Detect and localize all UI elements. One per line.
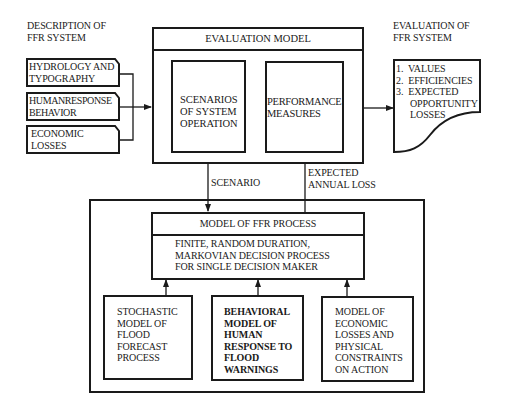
output-num: 1. xyxy=(396,63,403,74)
submodel-line: PHYSICAL xyxy=(335,341,403,353)
submodel-line: RESPONSE TO xyxy=(224,341,292,353)
submodel-line: WARNINGS xyxy=(224,364,292,376)
input-line: HUMANRESPONSE xyxy=(29,95,112,107)
scenarios-line: OF SYSTEM xyxy=(180,106,237,118)
scenarios-box: SCENARIOS OF SYSTEM OPERATION xyxy=(171,60,246,153)
output-item: 3. EXPECTED xyxy=(396,86,478,98)
input-line: TYPOGRAPHY xyxy=(29,73,114,85)
scenarios-line: OPERATION xyxy=(180,118,237,130)
output-list: 1. VALUES 2. EFFICIENCIES 3. EXPECTED OP… xyxy=(396,63,478,121)
submodel-line: MODEL OF xyxy=(224,318,292,330)
output-text: OPPORTUNITY xyxy=(396,98,478,110)
ffr-process-box: MODEL OF FFR PROCESS FINITE, RANDOM DURA… xyxy=(151,212,365,280)
output-text: EXPECTED xyxy=(408,86,458,97)
ffr-desc-line: FOR SINGLE DECISION MAKER xyxy=(175,261,330,273)
input-human-response: HUMANRESPONSE BEHAVIOR xyxy=(29,95,112,118)
economic-losses-model-box: MODEL OF ECONOMIC LOSSES AND PHYSICAL CO… xyxy=(321,296,414,382)
evaluation-model-title: EVALUATION MODEL xyxy=(205,33,311,44)
behavioral-response-model-box: BEHAVIORAL MODEL OF HUMAN RESPONSE TO FL… xyxy=(211,295,304,381)
input-line: ECONOMIC xyxy=(31,128,84,140)
input-line: HYDROLOGY AND xyxy=(29,61,114,73)
output-text: VALUES xyxy=(408,63,446,74)
right-heading-line: FFR SYSTEM xyxy=(393,32,470,44)
submodel-line: ON ACTION xyxy=(335,364,403,376)
submodel-line: PROCESS xyxy=(117,352,178,364)
performance-line: PERFORMANCE xyxy=(267,96,341,108)
submodel-line: MODEL OF xyxy=(117,318,178,330)
ffr-process-header: MODEL OF FFR PROCESS xyxy=(153,214,363,236)
submodel-label: BEHAVIORAL MODEL OF HUMAN RESPONSE TO FL… xyxy=(224,306,292,375)
submodel-line: BEHAVIORAL xyxy=(224,306,292,318)
expected-loss-line: ANNUAL LOSS xyxy=(308,179,376,191)
right-heading-line: EVALUATION OF xyxy=(393,20,470,32)
left-heading-line: FFR SYSTEM xyxy=(27,32,106,44)
output-item: 1. VALUES xyxy=(396,63,478,75)
output-text: EFFICIENCIES xyxy=(408,75,472,86)
performance-line: MEASURES xyxy=(267,108,341,120)
submodel-line: FLOOD xyxy=(117,329,178,341)
submodel-label: MODEL OF ECONOMIC LOSSES AND PHYSICAL CO… xyxy=(335,306,403,375)
scenarios-line: SCENARIOS xyxy=(180,94,237,106)
submodel-line: HUMAN xyxy=(224,329,292,341)
evaluation-model-header: EVALUATION MODEL xyxy=(154,29,362,51)
submodel-label: STOCHASTIC MODEL OF FLOOD FORECAST PROCE… xyxy=(117,306,178,364)
submodel-line: STOCHASTIC xyxy=(117,306,178,318)
input-line: BEHAVIOR xyxy=(29,107,112,119)
output-text: LOSSES xyxy=(396,109,478,121)
ffr-process-title: MODEL OF FFR PROCESS xyxy=(200,218,317,229)
left-heading-line: DESCRIPTION OF xyxy=(27,20,106,32)
input-economic-losses: ECONOMIC LOSSES xyxy=(31,128,84,151)
submodel-line: CONSTRAINTS xyxy=(335,352,403,364)
scenarios-label: SCENARIOS OF SYSTEM OPERATION xyxy=(180,94,237,130)
submodel-line: MODEL OF xyxy=(335,306,403,318)
expected-loss-line: EXPECTED xyxy=(308,167,376,179)
output-num: 2. xyxy=(396,75,403,86)
performance-measures-box: PERFORMANCE MEASURES xyxy=(265,61,344,153)
submodel-line: ECONOMIC xyxy=(335,318,403,330)
right-heading: EVALUATION OF FFR SYSTEM xyxy=(393,20,470,44)
output-num: 3. xyxy=(396,86,403,97)
submodel-line: LOSSES AND xyxy=(335,329,403,341)
ffr-desc-line: FINITE, RANDOM DURATION, xyxy=(175,238,330,250)
submodel-line: FORECAST xyxy=(117,341,178,353)
scenario-label: SCENARIO xyxy=(211,177,260,189)
input-line: LOSSES xyxy=(31,140,84,152)
input-hydrology: HYDROLOGY AND TYPOGRAPHY xyxy=(29,61,114,84)
left-heading: DESCRIPTION OF FFR SYSTEM xyxy=(27,20,106,44)
submodel-line: FLOOD xyxy=(224,352,292,364)
ffr-desc-line: MARKOVIAN DECISION PROCESS xyxy=(175,250,330,262)
performance-label: PERFORMANCE MEASURES xyxy=(267,96,341,120)
ffr-process-description: FINITE, RANDOM DURATION, MARKOVIAN DECIS… xyxy=(175,238,330,273)
stochastic-forecast-model-box: STOCHASTIC MODEL OF FLOOD FORECAST PROCE… xyxy=(103,295,193,380)
output-item: 2. EFFICIENCIES xyxy=(396,75,478,87)
expected-annual-loss-label: EXPECTED ANNUAL LOSS xyxy=(308,167,376,190)
